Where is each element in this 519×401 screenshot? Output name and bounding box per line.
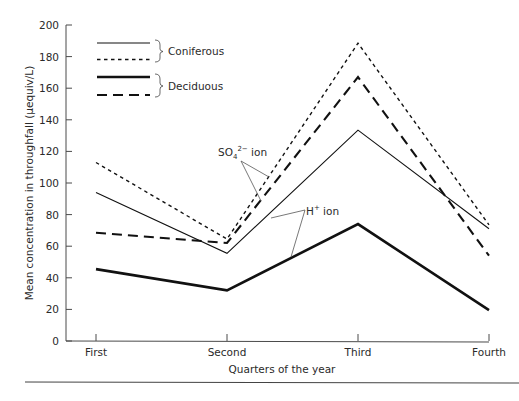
x-tick-label: Third xyxy=(344,346,372,358)
y-tick-label: 40 xyxy=(46,272,59,284)
annotation-h-ion: H+ ion xyxy=(271,204,339,257)
x-tick-label: Fourth xyxy=(472,346,506,358)
brace-icon xyxy=(155,74,163,97)
y-tick-label: 120 xyxy=(39,145,59,157)
bottom-rule xyxy=(25,382,519,383)
series-line-deciduous-so4-2-ion xyxy=(96,77,489,256)
y-tick-label: 160 xyxy=(39,82,59,94)
x-axis-label: Quarters of the year xyxy=(229,363,337,375)
legend-label-deciduous: Deciduous xyxy=(168,80,223,92)
brace-icon xyxy=(155,40,163,62)
x-tick-label: First xyxy=(85,346,107,358)
series-line-coniferous-h-ion xyxy=(96,130,489,253)
annotation-so4-label: SO42− ion xyxy=(218,145,267,161)
x-axis xyxy=(66,341,489,342)
x-ticks: FirstSecondThirdFourth xyxy=(85,334,506,358)
y-axis-label: Mean concentration in throughfall (μequi… xyxy=(23,66,35,301)
y-tick-label: 180 xyxy=(39,51,59,63)
y-tick-label: 140 xyxy=(39,114,59,126)
legend-label-coniferous: Coniferous xyxy=(168,45,224,57)
y-tick-label: 100 xyxy=(39,177,59,189)
y-tick-label: 80 xyxy=(46,209,59,221)
chart: Mean concentration in throughfall (μequi… xyxy=(0,0,519,401)
x-tick-label: Second xyxy=(208,346,247,358)
annotation-so4-ion: SO42− ion xyxy=(218,145,269,201)
series-line-deciduous-h-ion xyxy=(96,224,489,310)
y-tick-label: 0 xyxy=(52,335,59,347)
y-tick-label: 60 xyxy=(46,240,59,252)
annotation-h-label: H+ ion xyxy=(306,204,339,217)
y-ticks: 020406080100120140160180200 xyxy=(39,19,72,347)
series-line-coniferous-so4-2-ion xyxy=(96,43,489,239)
y-tick-label: 20 xyxy=(46,303,59,315)
axes xyxy=(66,25,489,342)
leader-line xyxy=(271,210,305,218)
legend: Coniferous Deciduous xyxy=(97,40,224,97)
y-tick-label: 200 xyxy=(39,19,59,31)
data-series xyxy=(96,43,489,310)
leader-line xyxy=(291,210,305,257)
